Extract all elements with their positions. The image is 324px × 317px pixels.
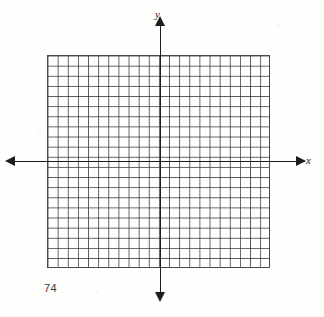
workbook-page: y x 74 [0,0,324,317]
y-axis-line [160,22,162,297]
page-number: 74 [44,282,57,294]
x-axis-line [12,161,305,163]
x-axis-arrow-right-icon [296,156,306,166]
y-axis-arrow-down-icon [155,292,165,302]
coordinate-plane-figure: y x [0,0,324,317]
x-axis-arrow-left-icon [5,156,15,166]
x-axis-label: x [306,155,311,166]
y-axis-label: y [155,9,160,20]
